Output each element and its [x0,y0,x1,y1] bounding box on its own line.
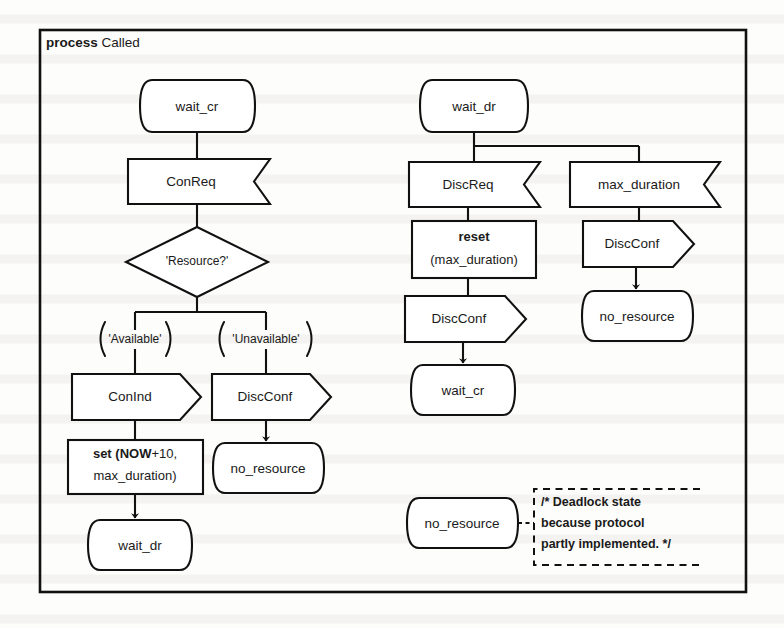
input-maxduration-label: max_duration [598,177,680,192]
state-noresource-right-label: no_resource [599,309,674,324]
comment-line-3: partly implemented. */ [541,537,671,551]
input-conreq-label: ConReq [166,174,216,189]
task-set-line2: max_duration) [93,468,176,483]
task-reset-line2: (max_duration) [430,252,517,267]
state-waitdr-top-label: wait_dr [451,99,496,114]
branch-label-available: 'Available' [108,332,161,346]
connector-waitdr-split [474,132,639,162]
task-reset-line1: reset [458,229,490,244]
state-noresource-left-label: no_resource [230,461,305,476]
paren-right-unavailable-open [220,322,225,356]
output-discconf-right-label: DiscConf [605,236,660,251]
connector-decision-split [135,297,266,330]
output-conind-label: ConInd [108,389,152,404]
sdl-process-diagram: process Called wait_cr ConReq 'Resource?… [0,0,784,628]
task-set-line1: set (NOW+10, [93,446,177,461]
branch-label-unavailable: 'Unavailable' [232,332,299,346]
state-waitdr-left-label: wait_dr [117,538,162,553]
process-header: process Called [46,35,140,50]
diagram-page: process Called wait_cr ConReq 'Resource?… [0,0,784,628]
output-discconf-left-label: DiscConf [238,389,293,404]
comment-line-2: because protocol [541,516,645,530]
state-waitcr-middle-label: wait_cr [441,383,485,398]
paren-right-unavailable-close [307,322,312,356]
input-discreq-label: DiscReq [442,177,493,192]
decision-resource-label: 'Resource?' [166,254,229,268]
paren-left-available-close [166,322,171,356]
state-noresource-deadlock-label: no_resource [424,516,499,531]
paren-left-available-open [101,322,106,356]
comment-line-1: /* Deadlock state [541,495,641,509]
state-wait-cr-label: wait_cr [175,99,219,114]
output-discconf-middle-label: DiscConf [432,311,487,326]
